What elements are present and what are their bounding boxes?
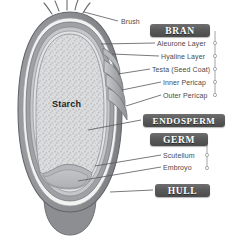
leader-hyaline: [112, 54, 159, 56]
label-aleurone-layer: Aleurone Layer: [157, 40, 206, 47]
label-scutellum: Scutellum: [163, 152, 195, 159]
banner-endosperm: ENDOSPERM: [143, 114, 225, 127]
leader-outer-pericap: [126, 95, 161, 106]
label-inner-pericap: Inner Pericap: [163, 79, 206, 86]
label-hyaline-layer: Hyaline Layer: [161, 53, 205, 60]
leader-hull: [110, 190, 153, 192]
leader-inner-pericap: [122, 82, 161, 90]
leader-testa: [118, 69, 150, 74]
label-embryo: Embroyo: [163, 164, 192, 171]
label-brush: Brush: [121, 18, 140, 25]
label-testa-seed-coat: Testa (Seed Coat): [152, 66, 210, 73]
banner-germ: GERM: [150, 133, 208, 146]
banner-hull: HULL: [155, 184, 210, 197]
banner-bran: BRAN: [150, 24, 210, 37]
grouping-brackets: [207, 31, 215, 170]
label-outer-pericap: Outer Pericap: [163, 92, 208, 99]
kernel-body: [18, 0, 127, 235]
kernel-anatomy-diagram: BRAN ENDOSPERM GERM HULL Brush Aleurone …: [0, 0, 233, 245]
label-starch: Starch: [52, 99, 81, 109]
